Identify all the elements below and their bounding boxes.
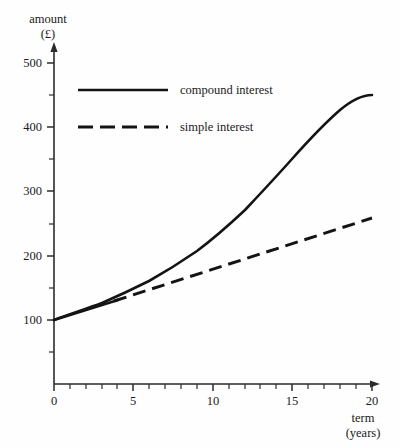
y-tick-label-500: 500	[0, 56, 42, 70]
caption-remnant	[30, 443, 330, 448]
y-axis-major-ticks	[47, 63, 54, 320]
legend-label-simple-interest: simple interest	[180, 120, 253, 135]
y-tick-label-400: 400	[0, 120, 42, 134]
x-tick-label-0: 0	[39, 394, 69, 408]
y-axis-title-line2: (£)	[11, 27, 85, 41]
x-tick-label-10: 10	[198, 394, 228, 408]
interest-growth-chart-figure: amount (£) 500 400 300 200 100 0 5 10 15…	[0, 0, 400, 448]
y-tick-label-300: 300	[0, 184, 42, 198]
y-axis-arrowhead	[50, 42, 57, 52]
x-tick-label-5: 5	[118, 394, 148, 408]
legend-label-compound-interest: compound interest	[180, 83, 273, 98]
y-tick-label-200: 200	[0, 249, 42, 263]
chart-canvas	[0, 0, 400, 448]
x-axis-title-line1: term	[332, 411, 394, 425]
x-axis-title-line2: (years)	[332, 426, 394, 440]
series-simple-interest-line	[114, 218, 372, 301]
x-tick-label-15: 15	[277, 394, 307, 408]
y-tick-label-100: 100	[0, 313, 42, 327]
y-axis-title-line1: amount	[11, 12, 85, 26]
x-tick-label-20: 20	[357, 394, 387, 408]
